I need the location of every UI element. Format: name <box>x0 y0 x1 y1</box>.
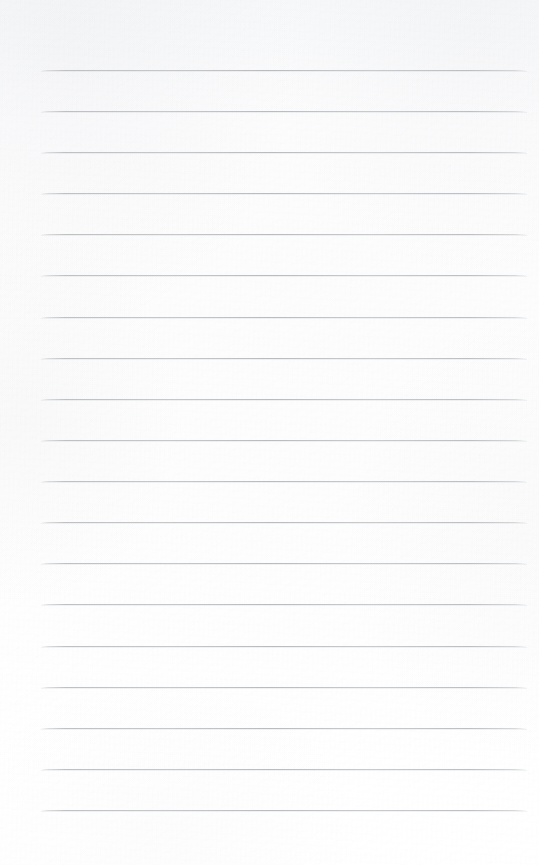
ruled-line <box>41 440 527 441</box>
ruled-line <box>41 275 527 276</box>
ruled-lines-group <box>0 0 539 865</box>
ruled-line <box>41 646 527 647</box>
ruled-line <box>41 317 527 318</box>
ruled-line <box>41 604 527 605</box>
ruled-line <box>41 152 527 153</box>
ruled-line <box>41 728 527 729</box>
ruled-line <box>41 810 527 811</box>
ruled-line <box>41 481 527 482</box>
ruled-line <box>41 193 527 194</box>
ruled-line <box>41 687 527 688</box>
ruled-line <box>41 111 527 112</box>
ruled-line <box>41 563 527 564</box>
ruled-line <box>41 522 527 523</box>
ruled-line <box>41 70 527 71</box>
ruled-line <box>41 769 527 770</box>
notepad-page <box>0 0 539 865</box>
ruled-line <box>41 234 527 235</box>
ruled-line <box>41 399 527 400</box>
ruled-line <box>41 358 527 359</box>
